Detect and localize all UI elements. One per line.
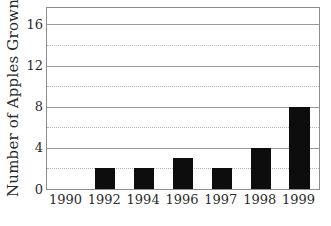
bars-layer [47, 8, 319, 189]
x-axis-tick-label: 1994 [124, 192, 163, 207]
bar [134, 168, 154, 189]
x-axis-tick-label: 1992 [85, 192, 124, 207]
y-axis-title-text: Number of Apples Grown [4, 0, 22, 197]
x-axis-tick-label: 1997 [201, 192, 240, 207]
bar [289, 107, 309, 189]
bar [251, 148, 271, 189]
bar [212, 168, 232, 189]
y-axis-tick-labels: 0481216 [24, 0, 46, 226]
x-axis-tick-labels: 1990199219941996199719981999 [46, 192, 320, 212]
bar-chart: Number of Apples Grown 0481216 199019921… [0, 0, 331, 226]
x-axis-tick-label: 1996 [163, 192, 202, 207]
bar [95, 168, 115, 189]
y-axis-tick-label: 16 [26, 18, 43, 31]
y-axis-tick-label: 0 [35, 183, 43, 196]
x-axis-tick-label: 1998 [240, 192, 279, 207]
x-axis-tick-label: 1990 [46, 192, 85, 207]
y-axis-tick-label: 4 [35, 141, 43, 154]
bar [173, 158, 193, 189]
y-axis-tick-label: 12 [26, 59, 43, 72]
y-axis-title: Number of Apples Grown [0, 0, 26, 196]
x-axis-tick-label: 1999 [279, 192, 318, 207]
y-axis-tick-label: 8 [35, 100, 43, 113]
plot-area [46, 7, 320, 190]
